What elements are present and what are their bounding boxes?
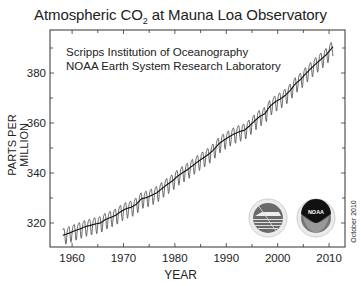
x-tick-label: 2000: [265, 252, 291, 264]
y-tick-label: 320: [27, 217, 46, 229]
x-tick-label: 1990: [213, 252, 239, 264]
y-tick-label: 380: [27, 67, 46, 79]
x-tick-label: 1960: [59, 252, 85, 264]
noaa-logo: NOAA: [297, 199, 335, 237]
annotation-scripps: Scripps Institution of Oceanography: [66, 45, 248, 59]
x-tick-label: 1970: [111, 252, 137, 264]
x-tick-label: 2010: [316, 252, 342, 264]
annual-mean-line: [63, 47, 333, 236]
annotation-noaa: NOAA Earth System Research Laboratory: [66, 59, 281, 73]
y-axis: 320340360380: [27, 48, 345, 229]
chart-plot: 196019701980199020002010 320340360380 NO…: [0, 0, 361, 286]
x-axis-label: YEAR: [0, 268, 361, 282]
date-stamp: October 2010: [350, 187, 357, 257]
svg-text:NOAA: NOAA: [308, 209, 324, 215]
y-axis-label: PARTS PER MILLION: [6, 95, 30, 195]
scripps-logo: [249, 199, 287, 237]
x-tick-label: 1980: [162, 252, 188, 264]
